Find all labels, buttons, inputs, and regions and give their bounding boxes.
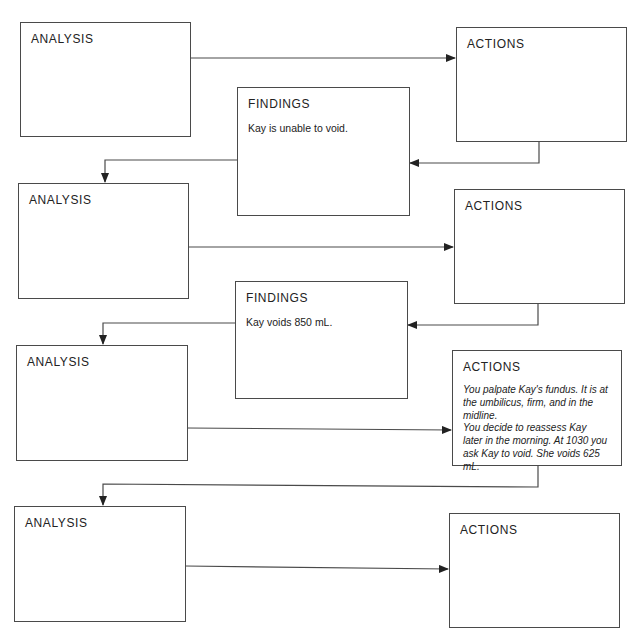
analysis-box-2: ANALYSIS <box>18 183 189 299</box>
actions-box-3-title: ACTIONS <box>463 360 521 374</box>
actions-box-3-line-1: You palpate Kay's fundus. It is at <box>463 384 615 397</box>
findings-box-2-title: FINDINGS <box>246 291 308 305</box>
actions-box-3-text: You palpate Kay's fundus. It is at the u… <box>463 384 615 474</box>
actions-box-3-line-4: later in the morning. At 1030 you <box>463 435 615 448</box>
actions-box-4-title: ACTIONS <box>460 523 518 537</box>
findings-box-1-text: Kay is unable to void. <box>248 122 403 136</box>
analysis-box-3-title: ANALYSIS <box>27 355 90 369</box>
actions-box-2: ACTIONS <box>454 189 625 304</box>
actions-box-1-title: ACTIONS <box>467 37 525 51</box>
actions-box-3-line-3: You decide to reassess Kay <box>463 422 615 435</box>
findings-box-1-title: FINDINGS <box>248 97 310 111</box>
analysis-box-3: ANALYSIS <box>16 345 188 461</box>
actions-box-3: ACTIONS You palpate Kay's fundus. It is … <box>452 350 622 466</box>
actions-box-2-title: ACTIONS <box>465 199 523 213</box>
findings-box-2-text: Kay voids 850 mL. <box>246 316 401 330</box>
analysis-box-1: ANALYSIS <box>20 22 191 137</box>
flowchart-canvas: ANALYSIS ACTIONS FINDINGS Kay is unable … <box>0 0 639 635</box>
analysis-box-4-title: ANALYSIS <box>25 516 88 530</box>
analysis-box-4: ANALYSIS <box>14 506 186 622</box>
analysis-box-1-title: ANALYSIS <box>31 32 94 46</box>
findings-box-2: FINDINGS Kay voids 850 mL. <box>235 281 408 399</box>
analysis-box-2-title: ANALYSIS <box>29 193 92 207</box>
actions-box-4: ACTIONS <box>449 513 620 628</box>
actions-box-1: ACTIONS <box>456 27 627 142</box>
actions-box-3-line-2: the umbilicus, firm, and in the midline. <box>463 397 615 423</box>
actions-box-3-line-5: ask Kay to void. She voids 625 mL. <box>463 448 615 474</box>
findings-box-1: FINDINGS Kay is unable to void. <box>237 87 410 216</box>
